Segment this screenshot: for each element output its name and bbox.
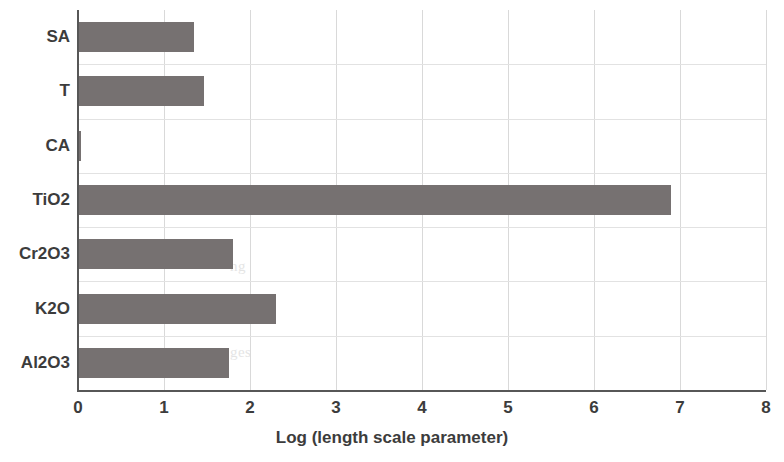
category-label-cr2o3: Cr2O3 (0, 244, 70, 264)
x-tick-5: 5 (503, 398, 512, 418)
category-label-al2o3: Al2O3 (0, 353, 70, 373)
category-label-t: T (0, 81, 70, 101)
x-tick-2: 2 (245, 398, 254, 418)
category-label-k2o: K2O (0, 299, 70, 319)
x-axis-title: Log (length scale parameter) (0, 428, 784, 448)
category-label-sa: SA (0, 27, 70, 47)
bar-tio2 (78, 185, 671, 215)
x-tick-1: 1 (159, 398, 168, 418)
bar-t (78, 76, 204, 106)
bar-al2o3 (78, 348, 229, 378)
x-tick-0: 0 (73, 398, 82, 418)
x-tick-4: 4 (417, 398, 426, 418)
gridline-vertical (766, 10, 767, 390)
x-axis-line (77, 390, 766, 392)
x-tick-3: 3 (331, 398, 340, 418)
bar-chart: ng are ges SATCATiO2Cr2O3K2OAl2O3 012345… (0, 0, 784, 462)
plot-area (78, 10, 766, 390)
bar-sa (78, 22, 194, 52)
bar-k2o (78, 294, 276, 324)
y-axis-line (77, 10, 79, 391)
bar-cr2o3 (78, 239, 233, 269)
category-label-ca: CA (0, 136, 70, 156)
bars-layer (78, 10, 766, 390)
x-tick-8: 8 (761, 398, 770, 418)
x-tick-7: 7 (675, 398, 684, 418)
x-tick-6: 6 (589, 398, 598, 418)
category-label-tio2: TiO2 (0, 190, 70, 210)
